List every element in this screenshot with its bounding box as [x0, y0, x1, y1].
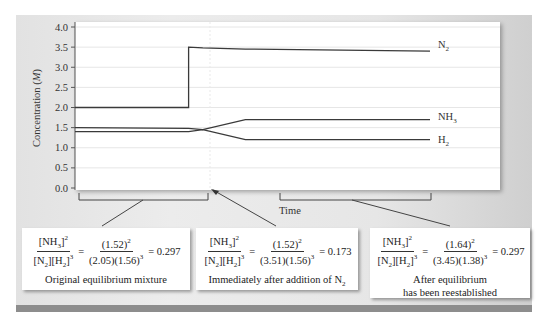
time-brackets: [79, 189, 450, 226]
q-expression: [NH3]2 [N2][H2]3: [202, 234, 246, 268]
y-tick-label: 4.0: [55, 22, 68, 33]
q-caption: Immediately after addition of N2: [196, 273, 358, 291]
q-values: (1.64)2 (3.45)(1.38)3: [431, 237, 489, 265]
y-tick-label: 0.5: [55, 162, 68, 173]
leader-addition: [213, 190, 276, 226]
y-tick-label: 3.5: [55, 42, 68, 53]
y-tick-label: 2.5: [55, 82, 68, 93]
q-box-reestablished: [NH3]2 [N2][H2]3 = (1.64)2 (3.45)(1.38)3…: [370, 228, 530, 298]
y-ticks: 0.00.51.01.52.02.53.03.54.0: [55, 22, 75, 194]
q-result: = 0.297: [148, 246, 180, 257]
y-tick-label: 0.0: [55, 183, 68, 194]
q-equation: [NH3]2 [N2][H2]3 = (1.52)2 (2.05)(1.56)3…: [22, 234, 190, 268]
y-tick-label: 1.0: [55, 142, 68, 153]
y-tick-label: 3.0: [55, 62, 68, 73]
q-equation: [NH3]2 [N2][H2]3 = (1.52)2 (3.51)(1.56)3…: [196, 234, 358, 268]
q-expression: [NH3]2 [N2][H2]3: [375, 234, 419, 268]
q-values: (1.52)2 (3.51)(1.56)3: [258, 237, 316, 265]
q-result: = 0.297: [492, 246, 524, 257]
bracket-reestablished: [280, 193, 431, 200]
q-values: (1.52)2 (2.05)(1.56)3: [87, 237, 145, 265]
y-axis-label: Concentration (M): [31, 69, 43, 147]
q-caption: After equilibrium has been reestablished: [370, 273, 530, 299]
q-caption: Original equilibrium mixture: [22, 273, 190, 286]
leader-reestablished: [352, 200, 450, 226]
leader-original: [102, 200, 143, 226]
q-box-after-addition: [NH3]2 [N2][H2]3 = (1.52)2 (3.51)(1.56)3…: [196, 228, 358, 290]
y-tick-label: 2.0: [55, 102, 68, 113]
q-box-original: [NH3]2 [N2][H2]3 = (1.52)2 (2.05)(1.56)3…: [22, 228, 190, 290]
bracket-original: [79, 193, 208, 200]
q-equation: [NH3]2 [N2][H2]3 = (1.64)2 (3.45)(1.38)3…: [370, 234, 530, 268]
q-result: = 0.173: [319, 246, 351, 257]
y-tick-label: 1.5: [55, 122, 68, 133]
x-axis-label: Time: [279, 205, 301, 216]
q-expression: [NH3]2 [N2][H2]3: [31, 234, 75, 268]
